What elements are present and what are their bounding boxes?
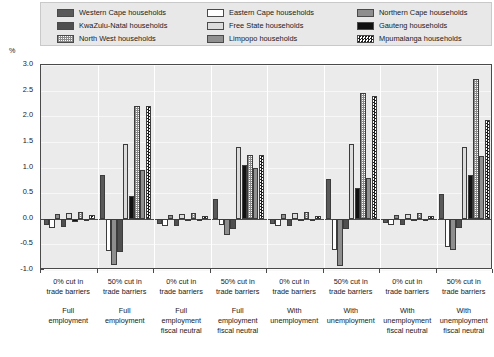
bar <box>298 219 303 221</box>
y-tick-label: 2.0 <box>6 110 33 119</box>
bar <box>197 219 202 221</box>
legend-swatch-kwazulu-natal <box>57 22 74 30</box>
bar <box>473 79 478 218</box>
bar <box>134 106 139 219</box>
bar <box>315 216 320 219</box>
bar <box>61 219 66 227</box>
bar <box>423 219 428 221</box>
legend-item-limpopo: Limpopo households <box>193 34 343 43</box>
chart-legend: Western Cape households Eastern Cape hou… <box>40 2 492 46</box>
bar <box>332 219 337 250</box>
y-tick-label: -1.0 <box>6 264 33 273</box>
bar <box>111 219 116 265</box>
legend-swatch-free-state <box>207 22 224 30</box>
bar <box>106 219 111 251</box>
chart-figure: Western Cape households Eastern Cape hou… <box>0 0 494 357</box>
x-tick-mark <box>210 269 211 273</box>
bar <box>100 175 105 219</box>
legend-label: Mpumalanga households <box>379 34 462 43</box>
legend-item-northern-cape: Northern Cape households <box>343 8 491 17</box>
legend-swatch-limpopo <box>207 35 224 43</box>
legend-label: Eastern Cape households <box>229 8 314 17</box>
bar <box>78 212 83 219</box>
bar <box>213 199 218 218</box>
bar <box>259 155 264 219</box>
x-axis-scenario: Fullemployment <box>36 306 101 326</box>
bar <box>343 219 348 229</box>
bar <box>247 155 252 219</box>
gridline-horizontal <box>41 193 491 194</box>
legend-item-mpumalanga: Mpumalanga households <box>343 34 491 43</box>
x-axis-group-label: 50% cut intrade barriersWithunemployment <box>319 277 384 326</box>
y-tick-label: 0.5 <box>6 187 33 196</box>
y-tick-label: 0.0 <box>6 213 33 222</box>
x-axis-category: 50% cut intrade barriers <box>206 277 271 297</box>
x-axis-category: 50% cut intrade barriers <box>432 277 494 297</box>
gridline-horizontal <box>41 168 491 169</box>
x-tick-mark <box>436 269 437 273</box>
bar <box>236 147 241 219</box>
x-axis-group-label: 50% cut intrade barriersFullemployment <box>93 277 158 326</box>
group-separator <box>437 65 438 268</box>
x-axis-scenario: Fullemployment <box>93 306 158 326</box>
group-separator <box>98 65 99 268</box>
bar <box>462 147 467 219</box>
bar <box>383 219 388 223</box>
bar <box>281 214 286 219</box>
bar <box>275 219 280 226</box>
x-tick-mark <box>97 269 98 273</box>
x-tick-mark <box>379 269 380 273</box>
bar <box>417 213 422 219</box>
bar <box>242 165 247 219</box>
y-tick-label: 2.5 <box>6 85 33 94</box>
bar <box>292 213 297 219</box>
bar <box>439 194 444 219</box>
legend-grid: Western Cape households Eastern Cape hou… <box>43 6 489 45</box>
x-axis-group-label: 0% cut intrade barriersWithunemployment <box>262 277 327 326</box>
bar <box>224 219 229 235</box>
bar <box>219 219 224 225</box>
bar <box>179 214 184 219</box>
bar <box>123 144 128 218</box>
group-separator <box>267 65 268 268</box>
bar <box>140 170 145 219</box>
bar <box>326 179 331 219</box>
x-axis-category: 0% cut intrade barriers <box>149 277 214 297</box>
x-tick-mark <box>40 269 41 273</box>
x-axis-category: 50% cut intrade barriers <box>319 277 384 297</box>
x-axis-scenario: Withunemployment <box>262 306 327 326</box>
bar <box>360 93 365 219</box>
bar <box>287 219 292 226</box>
legend-item-western-cape: Western Cape households <box>43 8 193 17</box>
bar <box>44 219 49 225</box>
bar <box>185 219 190 222</box>
bar <box>355 188 360 219</box>
bar <box>366 178 371 219</box>
group-separator <box>324 65 325 268</box>
bar <box>456 219 461 228</box>
x-tick-mark <box>323 269 324 273</box>
group-separator <box>380 65 381 268</box>
bar <box>129 196 134 219</box>
bar <box>394 215 399 219</box>
legend-swatch-western-cape <box>57 9 74 17</box>
x-axis-scenario: Withunemploymentfiscal neutral <box>432 306 494 336</box>
legend-label: Northern Cape households <box>379 8 467 17</box>
y-axis-label: % <box>9 46 15 55</box>
x-axis-category: 0% cut intrade barriers <box>36 277 101 297</box>
y-tick-label: 1.5 <box>6 136 33 145</box>
legend-label: North West households <box>79 34 156 43</box>
bar <box>479 156 484 219</box>
legend-item-north-west: North West households <box>43 34 193 43</box>
bar <box>72 219 77 222</box>
legend-label: Free State households <box>229 21 303 30</box>
legend-label: Limpopo households <box>229 34 297 43</box>
plot-area <box>40 64 492 269</box>
legend-swatch-mpumalanga <box>357 35 374 43</box>
bar <box>428 216 433 219</box>
bar <box>400 219 405 225</box>
bar <box>270 219 275 224</box>
bar <box>168 215 173 219</box>
legend-swatch-gauteng <box>357 22 374 30</box>
gridline-horizontal <box>41 116 491 117</box>
